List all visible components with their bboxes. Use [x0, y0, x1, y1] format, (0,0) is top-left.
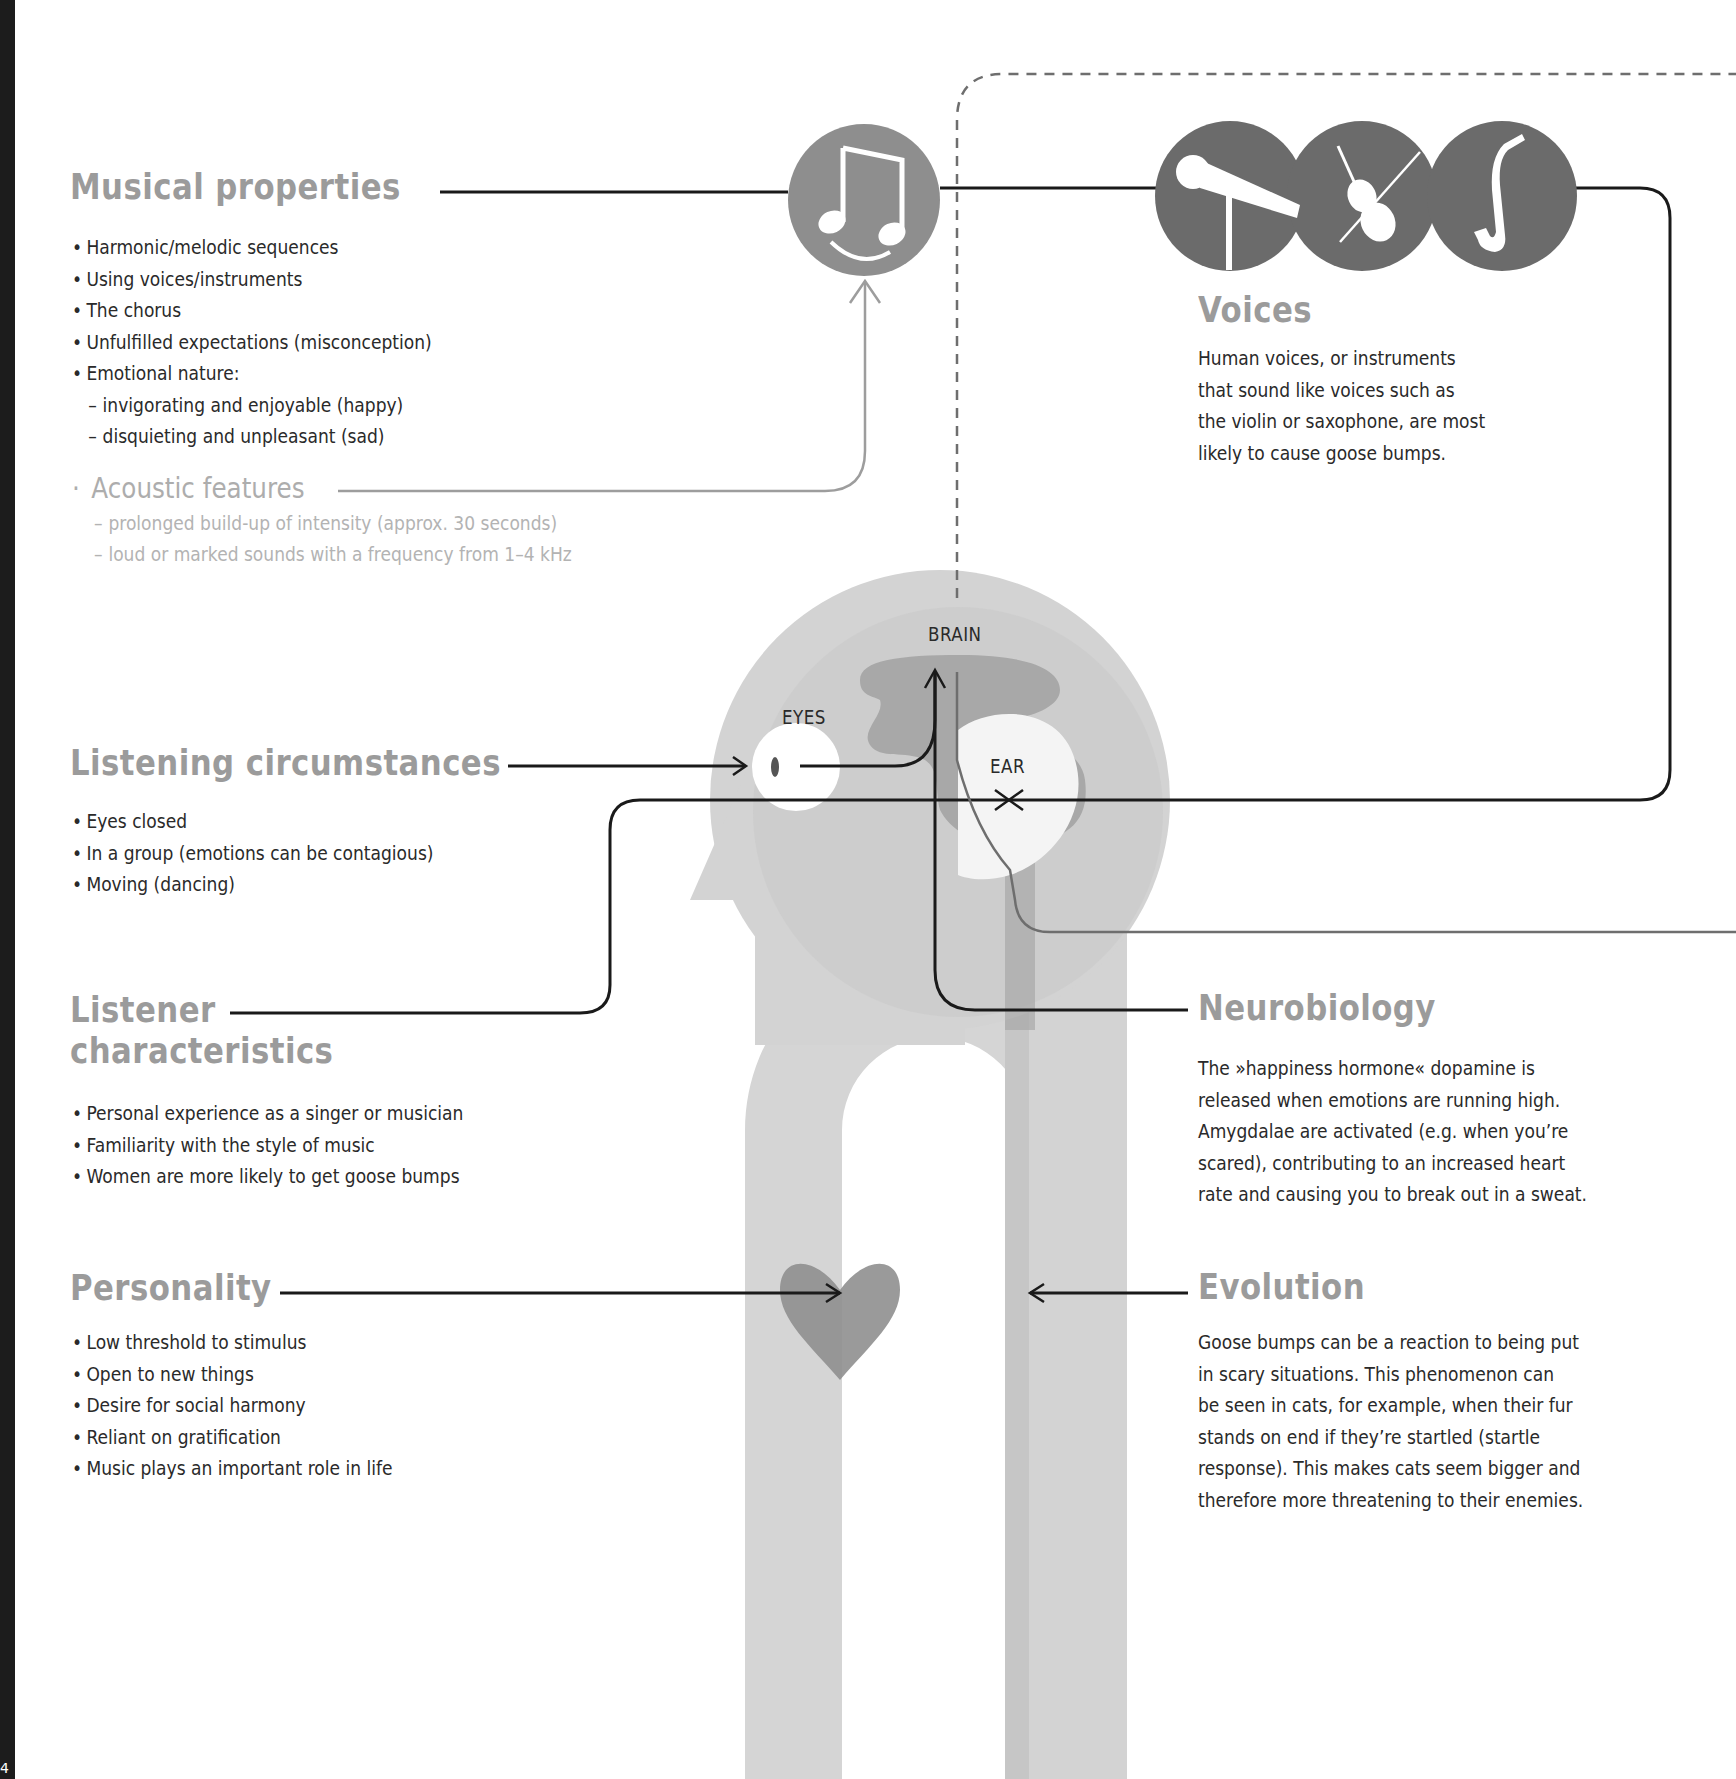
personality-list: Low threshold to stimulus Open to new th… [72, 1327, 393, 1485]
text-line: Goose bumps can be a reaction to being p… [1198, 1327, 1583, 1359]
evolution-description: Goose bumps can be a reaction to being p… [1198, 1327, 1583, 1516]
acoustic-features-heading: ·Acoustic features [72, 472, 305, 505]
list-item: Harmonic/melodic sequences [72, 232, 432, 264]
brain-label: BRAIN [928, 623, 981, 645]
bullet: · [72, 472, 91, 505]
listening-circumstances-list: Eyes closed In a group (emotions can be … [72, 806, 433, 901]
text-line: that sound like voices such as [1198, 375, 1485, 407]
list-item: Emotional nature: [72, 358, 432, 390]
text-line: response). This makes cats seem bigger a… [1198, 1453, 1583, 1485]
smiling-music-note-icon [788, 124, 940, 276]
list-item: Moving (dancing) [72, 869, 433, 901]
text-line: likely to cause goose bumps. [1198, 438, 1485, 470]
text-line: scared), contributing to an increased he… [1198, 1148, 1587, 1180]
personality-heading: Personality [70, 1268, 272, 1309]
text-line: rate and causing you to break out in a s… [1198, 1179, 1587, 1211]
list-item: Women are more likely to get goose bumps [72, 1161, 463, 1193]
instrument-icons [1155, 121, 1577, 271]
eye-pupil-icon [771, 757, 779, 777]
heading-line: Listener [70, 990, 333, 1031]
text-line: in scary situations. This phenomenon can [1198, 1359, 1583, 1391]
list-item: Desire for social harmony [72, 1390, 393, 1422]
list-item: Open to new things [72, 1359, 393, 1391]
acoustic-features-list: prolonged build-up of intensity (approx.… [94, 508, 572, 570]
list-item: prolonged build-up of intensity (approx.… [94, 508, 572, 539]
neurobiology-description: The »happiness hormone« dopamine is rele… [1198, 1053, 1587, 1211]
listener-characteristics-heading: Listener characteristics [70, 990, 333, 1073]
list-item: Familiarity with the style of music [72, 1130, 463, 1162]
text-line: released when emotions are running high. [1198, 1085, 1587, 1117]
neurobiology-heading: Neurobiology [1198, 988, 1436, 1029]
list-item: Using voices/instruments [72, 264, 432, 296]
musical-properties-heading: Musical properties [70, 167, 401, 208]
text-line: Amygdalae are activated (e.g. when you’r… [1198, 1116, 1587, 1148]
acoustic-features-title: Acoustic features [91, 472, 304, 505]
evolution-heading: Evolution [1198, 1267, 1365, 1308]
heading-line: characteristics [70, 1031, 333, 1072]
list-item: Music plays an important role in life [72, 1453, 393, 1485]
list-item: In a group (emotions can be contagious) [72, 838, 433, 870]
list-sub-item: invigorating and enjoyable (happy) [72, 390, 432, 422]
text-line: the violin or saxophone, are most [1198, 406, 1485, 438]
listening-circumstances-heading: Listening circumstances [70, 743, 501, 784]
list-item: Reliant on gratification [72, 1422, 393, 1454]
text-line: stands on end if they’re startled (start… [1198, 1422, 1583, 1454]
list-item: Personal experience as a singer or music… [72, 1098, 463, 1130]
eyes-label: EYES [782, 706, 826, 728]
text-line: Human voices, or instruments [1198, 343, 1485, 375]
list-item: loud or marked sounds with a frequency f… [94, 539, 572, 570]
musical-properties-list: Harmonic/melodic sequences Using voices/… [72, 232, 432, 453]
text-line: therefore more threatening to their enem… [1198, 1485, 1583, 1517]
ear-label: EAR [990, 755, 1025, 777]
list-item: Unfulfilled expectations (misconception) [72, 327, 432, 359]
text-line: The »happiness hormone« dopamine is [1198, 1053, 1587, 1085]
voices-heading: Voices [1198, 290, 1312, 331]
listener-characteristics-list: Personal experience as a singer or music… [72, 1098, 463, 1193]
list-sub-item: disquieting and unpleasant (sad) [72, 421, 432, 453]
list-item: The chorus [72, 295, 432, 327]
voices-description: Human voices, or instruments that sound … [1198, 343, 1485, 469]
list-item: Low threshold to stimulus [72, 1327, 393, 1359]
list-item: Eyes closed [72, 806, 433, 838]
text-line: be seen in cats, for example, when their… [1198, 1390, 1583, 1422]
